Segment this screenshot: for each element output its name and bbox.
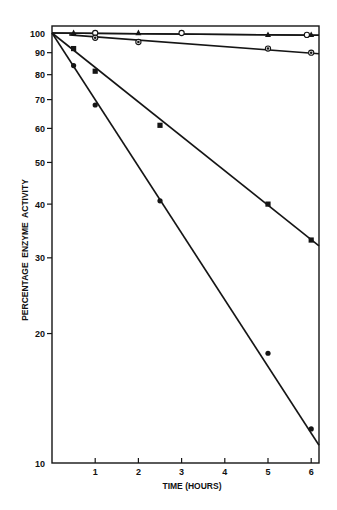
fit-line bbox=[52, 33, 319, 35]
x-axis-ticks: 123456 bbox=[93, 458, 314, 477]
x-tick-label: 5 bbox=[265, 467, 270, 477]
y-axis-label: PERCENTAGE ENZYME ACTIVITY bbox=[20, 179, 30, 321]
square-marker bbox=[309, 237, 314, 242]
fit-line bbox=[52, 33, 319, 445]
fit-lines bbox=[52, 33, 319, 445]
filled-circle-marker bbox=[309, 426, 314, 431]
x-tick-label: 1 bbox=[93, 467, 98, 477]
x-tick-label: 4 bbox=[222, 467, 227, 477]
fit-line bbox=[69, 35, 319, 54]
x-tick-label: 6 bbox=[309, 467, 314, 477]
plot-border bbox=[52, 26, 319, 463]
y-axis-ticks: 102030405060708090100 bbox=[30, 29, 52, 469]
filled-circle-marker bbox=[157, 198, 162, 203]
y-tick-label: 60 bbox=[35, 124, 45, 134]
data-points bbox=[71, 30, 315, 432]
y-tick-label: 90 bbox=[35, 48, 45, 58]
filled-circle-marker bbox=[265, 351, 270, 356]
y-tick-label: 20 bbox=[35, 329, 45, 339]
y-tick-label: 100 bbox=[30, 29, 45, 39]
y-tick-label: 10 bbox=[35, 459, 45, 469]
marker-center bbox=[94, 36, 97, 39]
x-axis-label: TIME (HOURS) bbox=[162, 481, 221, 491]
marker-center bbox=[310, 51, 313, 54]
square-marker bbox=[265, 202, 270, 207]
filled-circle-marker bbox=[71, 63, 76, 68]
marker-center bbox=[267, 47, 270, 50]
y-tick-label: 40 bbox=[35, 200, 45, 210]
marker-center bbox=[137, 41, 140, 44]
y-tick-label: 70 bbox=[35, 95, 45, 105]
square-marker bbox=[71, 46, 76, 51]
open-circle-marker bbox=[179, 30, 184, 35]
y-tick-label: 30 bbox=[35, 253, 45, 263]
square-marker bbox=[157, 123, 162, 128]
y-tick-label: 80 bbox=[35, 70, 45, 80]
triangle-marker bbox=[135, 30, 141, 36]
x-tick-label: 2 bbox=[136, 467, 141, 477]
enzyme-activity-chart: 102030405060708090100 123456 TIME (HOURS… bbox=[0, 0, 337, 510]
plot-frame bbox=[52, 26, 319, 463]
fit-line bbox=[52, 33, 319, 246]
square-marker bbox=[93, 69, 98, 74]
filled-circle-marker bbox=[93, 102, 98, 107]
y-tick-label: 50 bbox=[35, 158, 45, 168]
x-tick-label: 3 bbox=[179, 467, 184, 477]
